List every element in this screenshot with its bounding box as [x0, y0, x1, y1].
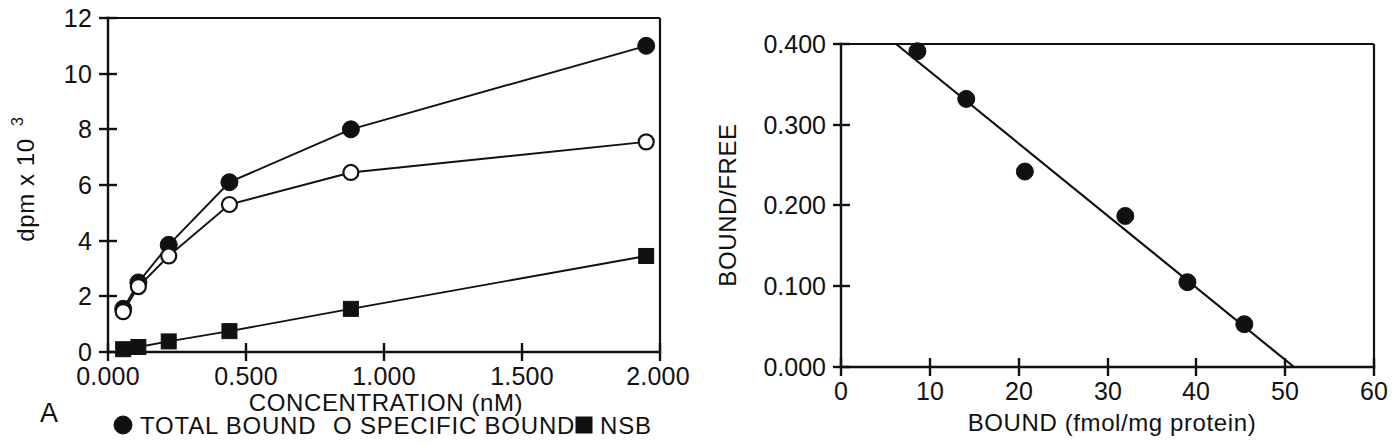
scatter-point [909, 43, 926, 60]
marker-total-bound [638, 37, 655, 54]
scatter-point [1117, 208, 1134, 225]
legend-label-total-bound: TOTAL BOUND [140, 412, 316, 439]
x-tick-label-10: 10 [916, 377, 944, 405]
y-tick-label-0100: 0.100 [763, 272, 826, 300]
marker-total-bound [221, 174, 238, 191]
scatter-point [1016, 163, 1033, 180]
panel-b: 0.000 0.100 0.200 0.300 0.400 0 10 20 30… [700, 0, 1398, 446]
x-tick-label-0: 0.000 [76, 362, 140, 390]
panel-b-plot: 0.000 0.100 0.200 0.300 0.400 0 10 20 30… [700, 0, 1398, 446]
marker-specific-bound [131, 279, 146, 294]
y-tick-label-8: 8 [78, 115, 92, 143]
x-tick-label-50: 50 [1271, 377, 1299, 405]
y-tick-label-12: 12 [64, 4, 92, 32]
marker-total-bound [342, 121, 359, 138]
x-tick-label-3: 1.500 [490, 362, 554, 390]
y-axis-title-group: BOUND/FREE [714, 123, 741, 286]
y-tick-label-0000: 0.000 [763, 353, 826, 381]
x-tick-label-1: 0.500 [214, 362, 278, 390]
y-tick-label-4: 4 [78, 227, 92, 255]
y-axis-title: dpm x 10 [12, 138, 39, 242]
legend-filled-square-icon [576, 417, 592, 433]
y-tick-label-10: 10 [64, 60, 92, 88]
figure-container: 0 2 4 6 8 10 12 0.000 0.500 1.000 1.500 … [0, 0, 1398, 446]
marker-nsb [161, 334, 176, 349]
y-tick-label-6: 6 [78, 171, 92, 199]
legend-label-specific-bound: O SPECIFIC BOUND [333, 412, 575, 439]
y-axis-title: BOUND/FREE [714, 123, 741, 286]
panel-a: 0 2 4 6 8 10 12 0.000 0.500 1.000 1.500 … [0, 0, 700, 446]
scatter-point [958, 90, 975, 107]
x-tick-label-4: 2.000 [626, 362, 690, 390]
panel-a-axes [108, 18, 660, 352]
marker-specific-bound [161, 248, 176, 263]
marker-specific-bound [222, 197, 237, 212]
panel-a-plot: 0 2 4 6 8 10 12 0.000 0.500 1.000 1.500 … [0, 0, 700, 446]
marker-nsb [343, 301, 358, 316]
x-tick-label-60: 60 [1360, 377, 1388, 405]
panel-a-letter: A [40, 398, 59, 429]
marker-specific-bound [116, 304, 131, 319]
panel-a-data-series [115, 37, 655, 356]
regression-fit-line [896, 44, 1294, 367]
y-tick-label-2: 2 [78, 282, 92, 310]
series-line-nsb [123, 256, 646, 349]
marker-nsb [131, 339, 146, 354]
panel-b-axes [841, 44, 1374, 367]
scatter-point [1179, 274, 1196, 291]
x-tick-label-20: 20 [1005, 377, 1033, 405]
marker-specific-bound [639, 134, 654, 149]
scatter-point [1236, 316, 1253, 333]
y-tick-label-0200: 0.200 [763, 191, 826, 219]
panel-a-legend: TOTAL BOUND O SPECIFIC BOUND NSB [114, 412, 652, 439]
marker-nsb [222, 324, 237, 339]
marker-specific-bound [343, 165, 358, 180]
x-axis-title: BOUND (fmol/mg protein) [968, 409, 1257, 436]
x-tick-label-40: 40 [1182, 377, 1210, 405]
y-axis-title-superscript: 3 [9, 117, 26, 126]
y-tick-label-0400: 0.400 [763, 30, 826, 58]
legend-label-nsb: NSB [600, 412, 652, 439]
marker-nsb [639, 248, 654, 263]
marker-nsb [116, 342, 131, 357]
y-tick-label-0300: 0.300 [763, 111, 826, 139]
x-tick-label-0: 0 [834, 377, 848, 405]
y-axis-title-group: dpm x 10 3 [9, 117, 39, 242]
x-tick-label-2: 1.000 [352, 362, 416, 390]
x-tick-label-30: 30 [1094, 377, 1122, 405]
legend-filled-circle-icon [114, 416, 132, 434]
series-line-specific-bound [123, 142, 646, 312]
panel-b-data-series [896, 43, 1294, 367]
